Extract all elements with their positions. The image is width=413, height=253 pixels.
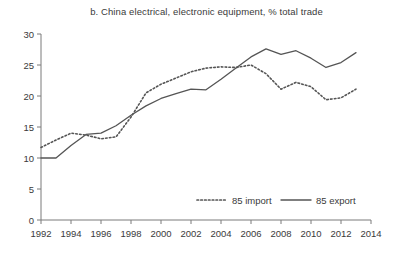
x-axis-tick-label: 1994 [60, 228, 81, 239]
series-line-85-import [41, 65, 356, 147]
x-axis-tick-label: 2000 [150, 228, 171, 239]
legend-label: 85 export [316, 195, 356, 206]
series-line-85-export [41, 49, 356, 158]
data-series [41, 49, 356, 158]
x-axis-tick-label: 2010 [300, 228, 321, 239]
x-axis-tick-label: 2004 [210, 228, 231, 239]
y-axis-tick-label: 15 [23, 122, 34, 133]
x-axis-tick-label: 2012 [330, 228, 351, 239]
y-axis-tick-label: 20 [23, 91, 34, 102]
chart-figure: b. China electrical, electronic equipmen… [0, 0, 413, 253]
y-axis-tick-label: 25 [23, 60, 34, 71]
x-axis-tick-label: 1998 [120, 228, 141, 239]
chart-legend: 85 import85 export [197, 195, 356, 206]
y-axis-tick-label: 10 [23, 153, 34, 164]
line-chart-plot: 0510152025301992199419961998200020022004… [0, 0, 413, 253]
x-axis-tick-label: 2006 [240, 228, 261, 239]
y-axis-tick-label: 0 [29, 215, 34, 226]
x-axis-tick-label: 2014 [360, 228, 381, 239]
y-axis-tick-label: 5 [29, 184, 34, 195]
x-axis-tick-label: 2008 [270, 228, 291, 239]
y-axis-tick-label: 30 [23, 29, 34, 40]
x-axis-tick-label: 2002 [180, 228, 201, 239]
x-axis-tick-label: 1996 [90, 228, 111, 239]
legend-label: 85 import [232, 195, 272, 206]
legend-item: 85 import [197, 195, 272, 206]
x-axis-tick-label: 1992 [30, 228, 51, 239]
legend-item: 85 export [281, 195, 356, 206]
